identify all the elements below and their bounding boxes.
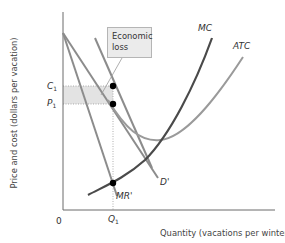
mr-mc-intersection-point <box>110 180 116 186</box>
economic-loss-callout: Economic loss <box>107 27 152 58</box>
c1-tick-label: C1 <box>47 82 57 92</box>
p1-sub: 1 <box>52 102 56 109</box>
d-prime-label: D' <box>160 178 169 187</box>
atc-label: ATC <box>233 42 250 51</box>
economic-loss-area <box>63 86 113 104</box>
mc-label: MC <box>198 24 212 33</box>
mr-prime-label: MR' <box>116 192 133 201</box>
c1-point <box>110 83 116 89</box>
q1-tick-label: Q1 <box>108 215 119 225</box>
p1-point <box>110 101 116 107</box>
p1-tick-label: P1 <box>47 99 56 109</box>
atc-curve <box>108 57 243 140</box>
x-axis-label: Quantity (vacations per winter) <box>160 228 285 238</box>
callout-line-1: Economic <box>112 31 151 42</box>
c1-sub: 1 <box>53 85 57 92</box>
q1-sub: 1 <box>115 218 119 225</box>
y-axis-label: Price and cost (dollars per vacation) <box>9 37 19 188</box>
callout-line-2: loss <box>112 42 151 53</box>
mc-curve <box>88 38 212 195</box>
origin-label: 0 <box>56 217 62 226</box>
